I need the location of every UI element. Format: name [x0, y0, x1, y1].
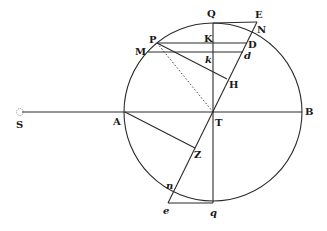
line-AZ — [125, 112, 195, 148]
label-K: K — [204, 33, 213, 44]
label-Q: Q — [207, 8, 216, 19]
geometry-figure: S A B T Q q E N P M K k D d H Z n e — [0, 0, 327, 231]
label-P: P — [149, 34, 157, 45]
label-n: n — [166, 180, 173, 191]
diagram-canvas: S A B T Q q E N P M K k D d H Z n e — [0, 0, 327, 231]
label-M: M — [135, 46, 146, 57]
label-H: H — [229, 79, 238, 90]
label-B: B — [305, 106, 313, 117]
label-d: d — [244, 50, 251, 61]
label-S: S — [16, 119, 23, 130]
label-k: k — [205, 54, 212, 65]
label-E: E — [255, 9, 263, 20]
line-PH — [157, 43, 227, 79]
label-e: e — [163, 205, 169, 216]
label-D: D — [248, 39, 257, 50]
label-A: A — [112, 116, 121, 127]
label-q: q — [210, 207, 217, 218]
label-N: N — [257, 24, 266, 35]
label-T: T — [215, 117, 223, 128]
label-Z: Z — [194, 149, 201, 160]
line-QE — [213, 22, 257, 23]
